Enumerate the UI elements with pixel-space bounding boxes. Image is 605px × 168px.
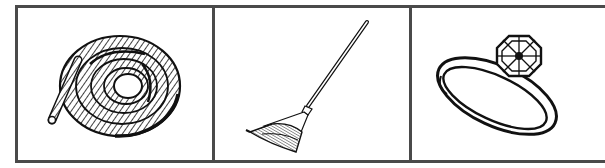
coiled-rope-icon: [40, 24, 190, 144]
leaf-rake-icon: [242, 14, 382, 154]
panel-rake: Rake: [215, 8, 409, 160]
panel-ring: Ring: [412, 8, 591, 160]
diamond-ring-icon: [427, 24, 577, 144]
panel-rope: Rope: [18, 8, 212, 160]
